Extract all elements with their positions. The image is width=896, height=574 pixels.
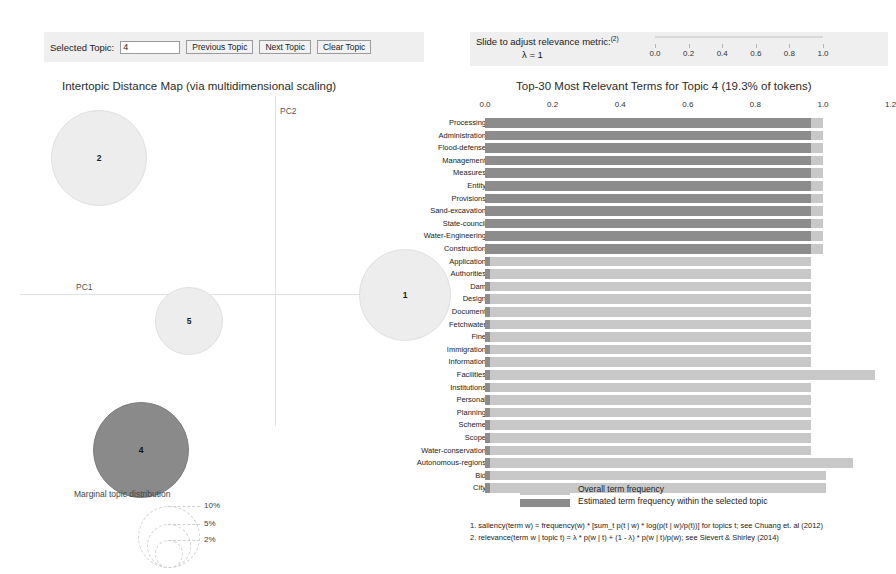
- term-bar-row[interactable]: Application: [400, 257, 896, 270]
- clear-topic-button[interactable]: Clear Topic: [317, 40, 371, 54]
- bar-estimated-frequency: [485, 168, 811, 178]
- term-bar-row[interactable]: Fetchwater: [400, 320, 896, 333]
- slider-caption-text: Slide to adjust relevance metric:: [476, 36, 611, 47]
- bar-overall-frequency: [485, 345, 811, 355]
- term-bar-row[interactable]: Document: [400, 307, 896, 320]
- bar-estimated-frequency: [485, 332, 490, 342]
- term-bar-row[interactable]: Design: [400, 294, 896, 307]
- term-label: Fine: [471, 332, 486, 341]
- legend-swatch-estimated-icon: [520, 499, 570, 507]
- term-bar-row[interactable]: Personal: [400, 395, 896, 408]
- term-bar-row[interactable]: State-council: [400, 219, 896, 232]
- bar-estimated-frequency: [485, 282, 490, 292]
- term-bar-row[interactable]: Flood-defense: [400, 143, 896, 156]
- term-bar-row[interactable]: Information: [400, 357, 896, 370]
- term-bar-row[interactable]: Measures: [400, 168, 896, 181]
- term-label: Information: [448, 357, 486, 366]
- term-bar-row[interactable]: Processing: [400, 118, 896, 131]
- bar-overall-frequency: [485, 320, 811, 330]
- previous-topic-button[interactable]: Previous Topic: [186, 40, 253, 54]
- term-bar-row[interactable]: Institutions: [400, 383, 896, 396]
- x-axis-tick-label: 1.0: [817, 100, 828, 109]
- term-label: Autonomous-regions: [417, 458, 486, 467]
- term-label: Water-conservation: [421, 446, 486, 455]
- term-bar-row[interactable]: Provisions: [400, 194, 896, 207]
- bar-chart-legend: Overall term frequency Estimated term fr…: [520, 486, 880, 510]
- bar-estimated-frequency: [485, 156, 811, 166]
- term-label: Processing: [449, 118, 486, 127]
- relevant-terms-bar-chart[interactable]: 0.00.20.40.60.81.01.2 ProcessingAdminist…: [400, 96, 896, 496]
- x-axis-tick-label: 1.2: [885, 100, 896, 109]
- term-bar-row[interactable]: Planning: [400, 408, 896, 421]
- bar-estimated-frequency: [485, 219, 811, 229]
- bar-overall-frequency: [485, 458, 853, 468]
- slider-tick-label: 0.0: [649, 49, 660, 58]
- term-bar-row[interactable]: Sand-excavation: [400, 206, 896, 219]
- bar-estimated-frequency: [485, 483, 490, 493]
- relevance-slider-track[interactable]: [655, 36, 823, 38]
- term-bar-row[interactable]: Management: [400, 156, 896, 169]
- term-label: Application: [449, 257, 486, 266]
- x-axis-tick-label: 0.4: [615, 100, 626, 109]
- next-topic-button[interactable]: Next Topic: [259, 40, 311, 54]
- bar-estimated-frequency: [485, 294, 490, 304]
- term-label: Dam: [470, 282, 486, 291]
- term-bar-row[interactable]: Dam: [400, 282, 896, 295]
- slider-tick-axis: 0.00.20.40.60.81.0: [645, 44, 835, 62]
- term-label: Facilities: [457, 370, 486, 379]
- bar-estimated-frequency: [485, 395, 490, 405]
- bar-overall-frequency: [485, 408, 811, 418]
- bar-estimated-frequency: [485, 408, 490, 418]
- bar-estimated-frequency: [485, 257, 490, 267]
- x-axis-tick-label: 0.8: [750, 100, 761, 109]
- term-label: Management: [442, 156, 486, 165]
- term-label: State-council: [443, 219, 486, 228]
- topic-control-panel: Selected Topic: Previous Topic Next Topi…: [44, 32, 424, 62]
- size-legend-percent: 5%: [204, 519, 216, 528]
- selected-topic-input[interactable]: [120, 41, 180, 54]
- bar-overall-frequency: [485, 332, 811, 342]
- term-bar-row[interactable]: Authorities: [400, 269, 896, 282]
- term-bar-row[interactable]: Water-Engineering: [400, 231, 896, 244]
- term-bar-row[interactable]: Water-conservation: [400, 446, 896, 459]
- term-label: Measures: [453, 168, 486, 177]
- term-bar-row[interactable]: Construction: [400, 244, 896, 257]
- term-label: Fetchwater: [449, 320, 486, 329]
- term-bar-row[interactable]: Scheme: [400, 420, 896, 433]
- slider-tick-mark: [789, 44, 790, 48]
- bar-estimated-frequency: [485, 320, 490, 330]
- term-label: Construction: [444, 244, 486, 253]
- bar-chart-title: Top-30 Most Relevant Terms for Topic 4 (…: [516, 80, 812, 92]
- bar-estimated-frequency: [485, 458, 490, 468]
- bar-overall-frequency: [485, 446, 811, 456]
- bar-overall-frequency: [485, 257, 811, 267]
- term-bar-row[interactable]: Administration: [400, 131, 896, 144]
- bar-estimated-frequency: [485, 143, 811, 153]
- bar-estimated-frequency: [485, 307, 490, 317]
- term-bar-row[interactable]: Immigration: [400, 345, 896, 358]
- term-bar-row[interactable]: Autonomous-regions: [400, 458, 896, 471]
- term-label: Personal: [456, 395, 486, 404]
- bar-estimated-frequency: [485, 206, 811, 216]
- term-bar-row[interactable]: Fine: [400, 332, 896, 345]
- slider-caption: Slide to adjust relevance metric:(2): [476, 35, 619, 47]
- term-label: Sand-excavation: [430, 206, 486, 215]
- bar-estimated-frequency: [485, 446, 490, 456]
- bar-overall-frequency: [485, 395, 811, 405]
- term-bar-row[interactable]: Entity: [400, 181, 896, 194]
- size-legend-percent: 10%: [204, 501, 220, 510]
- term-bar-row[interactable]: Scope: [400, 433, 896, 446]
- topic-bubble-5[interactable]: 5: [155, 287, 223, 355]
- bar-estimated-frequency: [485, 433, 490, 443]
- bar-overall-frequency: [485, 383, 811, 393]
- term-bar-row[interactable]: Bid: [400, 471, 896, 484]
- term-label: Institutions: [450, 383, 486, 392]
- selected-topic-label: Selected Topic:: [50, 42, 114, 53]
- term-bar-row[interactable]: Facilities: [400, 370, 896, 383]
- bar-estimated-frequency: [485, 131, 811, 141]
- bar-overall-frequency: [485, 269, 811, 279]
- term-label: Flood-defense: [438, 143, 486, 152]
- slider-tick-mark: [689, 44, 690, 48]
- topic-bubble-2[interactable]: 2: [51, 110, 147, 206]
- topic-bubble-4[interactable]: 4: [93, 402, 189, 498]
